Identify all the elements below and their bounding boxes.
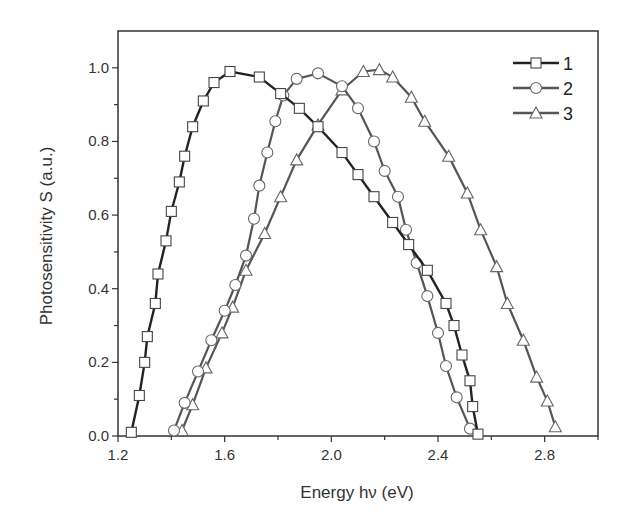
square-marker (188, 122, 198, 132)
y-tick-label: 0.4 (88, 280, 109, 297)
circle-marker (270, 116, 281, 127)
triangle-marker (419, 115, 431, 126)
square-marker (313, 122, 323, 132)
circle-marker (393, 191, 404, 202)
axis-ticks: 1.21.62.02.42.80.00.20.40.60.81.0 (88, 59, 598, 463)
square-marker (166, 206, 176, 216)
square-marker (180, 151, 190, 161)
circle-marker (353, 103, 364, 114)
square-marker (473, 429, 483, 439)
y-tick-label: 0.6 (88, 206, 109, 223)
triangle-marker (291, 154, 303, 165)
legend-square-icon (531, 58, 541, 68)
square-marker (353, 170, 363, 180)
legend-label: 1 (563, 54, 573, 74)
data-series (126, 64, 561, 440)
y-tick-label: 1.0 (88, 59, 109, 76)
square-marker (468, 402, 478, 412)
triangle-marker (387, 71, 399, 82)
square-marker (457, 350, 467, 360)
circle-marker (249, 213, 260, 224)
triangle-marker (461, 187, 473, 198)
legend-label: 3 (563, 104, 573, 124)
square-marker (276, 89, 286, 99)
legend-item-2: 2 (513, 79, 573, 99)
circle-marker (313, 68, 324, 79)
triangle-marker (259, 228, 271, 239)
circle-marker (254, 180, 265, 191)
triangle-marker (517, 334, 529, 345)
square-marker (388, 217, 398, 227)
square-marker (209, 78, 219, 88)
circle-marker (206, 335, 217, 346)
square-marker (225, 67, 235, 77)
x-tick-label: 2.4 (428, 446, 449, 463)
circle-marker (262, 147, 273, 158)
square-marker (441, 298, 451, 308)
square-marker (294, 103, 304, 113)
plot-area (118, 31, 598, 436)
circle-marker (422, 291, 433, 302)
x-tick-label: 1.2 (108, 446, 129, 463)
circle-marker (379, 165, 390, 176)
legend: 123 (513, 54, 573, 124)
square-marker (369, 192, 379, 202)
triangle-marker (501, 297, 513, 308)
circle-marker (291, 73, 302, 84)
triangle-marker (491, 261, 503, 272)
circle-marker (219, 305, 230, 316)
legend-item-1: 1 (513, 54, 573, 74)
square-marker (161, 236, 171, 246)
square-marker (465, 376, 475, 386)
series-3 (176, 64, 561, 436)
series-1 (126, 67, 483, 440)
square-marker (140, 357, 150, 367)
square-marker (449, 321, 459, 331)
triangle-marker (275, 191, 287, 202)
square-marker (198, 96, 208, 106)
square-marker (337, 148, 347, 158)
circle-marker (179, 397, 190, 408)
circle-marker (241, 250, 252, 261)
y-tick-label: 0.8 (88, 132, 109, 149)
square-marker (404, 240, 414, 250)
circle-marker (169, 425, 180, 436)
photosensitivity-chart: 1.21.62.02.42.80.00.20.40.60.81.0 Energy… (0, 0, 633, 526)
triangle-marker (531, 371, 543, 382)
y-tick-label: 0.0 (88, 427, 109, 444)
square-marker (174, 177, 184, 187)
circle-marker (230, 280, 241, 291)
y-axis-title: Photosensitivity S (a.u.) (37, 147, 56, 326)
x-tick-label: 1.6 (214, 446, 235, 463)
circle-marker (433, 327, 444, 338)
x-tick-label: 2.0 (321, 446, 342, 463)
square-marker (422, 265, 432, 275)
circle-marker (337, 81, 348, 92)
triangle-marker (541, 395, 553, 406)
square-marker (150, 298, 160, 308)
x-tick-label: 2.8 (534, 446, 555, 463)
x-axis-title: Energy hν (eV) (300, 483, 413, 502)
legend-item-3: 3 (513, 104, 573, 124)
legend-label: 2 (563, 79, 573, 99)
square-marker (142, 332, 152, 342)
plot-border (118, 31, 598, 436)
triangle-marker (549, 421, 561, 432)
triangle-marker (475, 224, 487, 235)
legend-circle-icon (531, 83, 542, 94)
circle-marker (369, 136, 380, 147)
circle-marker (441, 361, 452, 372)
series-line (182, 70, 555, 431)
circle-marker (451, 392, 462, 403)
square-marker (134, 391, 144, 401)
circle-marker (193, 366, 204, 377)
square-marker (254, 72, 264, 82)
square-marker (153, 269, 163, 279)
square-marker (126, 427, 136, 437)
y-tick-label: 0.2 (88, 353, 109, 370)
